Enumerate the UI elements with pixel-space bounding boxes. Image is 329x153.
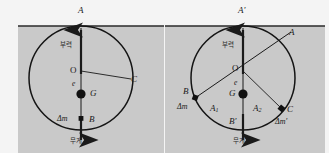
delta-m-marker [79,116,84,121]
label-a-tilted: A [289,28,295,37]
right-figure-svg [165,0,329,153]
label-delta-m: Δm [177,103,187,111]
label-a: A [78,6,84,15]
label-b-prime: B' [229,117,236,126]
gravity-center-marker [238,89,247,98]
diagram-canvas: A 부력 O e G C Δm B 무게 [0,0,329,153]
label-a2: A2 [253,104,262,113]
left-figure: A 부력 O e G C Δm B 무게 [0,0,164,153]
label-buoyancy-ko: 부력 [60,42,72,49]
left-figure-svg [0,0,164,153]
label-delta-m: Δm [57,115,67,123]
label-a1-sub: 1 [216,107,219,113]
label-a1: A1 [210,104,219,113]
label-weight-ko: 무게 [70,138,82,145]
label-o: O [70,66,77,75]
gravity-center-marker [76,89,85,98]
label-c: C [287,105,293,114]
label-buoyancy-ko: 부력 [222,42,234,49]
label-e: e [234,79,237,87]
label-a2-sub: 2 [259,107,262,113]
label-e: e [72,80,75,88]
label-weight-ko: 무게 [233,138,245,145]
water-region [165,26,325,153]
label-b: B [89,115,95,124]
label-c: C [131,75,137,84]
label-g: G [90,89,97,98]
label-delta-m-prime: Δm' [275,118,287,126]
label-g: G [229,89,236,98]
label-b: B [183,87,189,96]
label-a-prime: A' [238,6,245,15]
label-o: O [232,64,239,73]
right-figure: A' A 부력 O e G B C Δm Δm' A1 A2 B' 무게 [165,0,329,153]
